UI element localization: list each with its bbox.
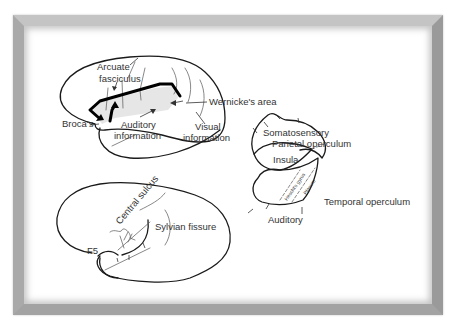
- label-visual-information-2: information: [183, 132, 230, 143]
- sulcus-line: [185, 68, 191, 102]
- label-parietal-operculum: Parietal operculum: [272, 138, 351, 149]
- auditory-arrows: [248, 204, 302, 214]
- opercula-view: Somatosensory Parietal operculum Insula …: [248, 114, 410, 225]
- label-auditory-information-2: information: [114, 130, 161, 141]
- arcuate-leader-head: [112, 86, 117, 91]
- sulcus-line: [118, 222, 150, 250]
- label-temporal-operculum: Temporal operculum: [324, 196, 410, 207]
- label-heschls-gyrus: Heschl's gyrus: [283, 171, 307, 201]
- label-auditory-information-1: Auditory: [121, 119, 156, 130]
- label-auditory: Auditory: [268, 214, 303, 225]
- label-central-sulcus: Central sulcus: [113, 173, 160, 226]
- label-insula: Insula: [273, 154, 299, 165]
- label-planum: Planum: [302, 178, 317, 195]
- sylvian-fissure-line: [122, 220, 148, 255]
- brain-language-diagram: Arcuate fasciculus Broca's Auditory info…: [0, 0, 455, 329]
- label-f5: F5: [87, 245, 98, 256]
- label-brocas: Broca's: [62, 118, 94, 129]
- label-somatosensory: Somatosensory: [263, 127, 329, 138]
- bottom-brain-lateral-view: Central sulcus Sylvian fissure F5: [57, 173, 230, 282]
- label-arcuate: Arcuate: [97, 61, 130, 72]
- sulcus-line: [200, 80, 204, 116]
- label-sylvian-fissure: Sylvian fissure: [155, 221, 216, 232]
- sulcus-line: [124, 232, 128, 240]
- label-visual-information-1: Visual: [195, 121, 221, 132]
- label-wernickes-area: Wernicke's area: [209, 96, 277, 107]
- f5-outline: [98, 251, 118, 256]
- label-fasciculus: fasciculus: [99, 73, 141, 84]
- top-brain-lateral-view: Arcuate fasciculus Broca's Auditory info…: [60, 56, 277, 158]
